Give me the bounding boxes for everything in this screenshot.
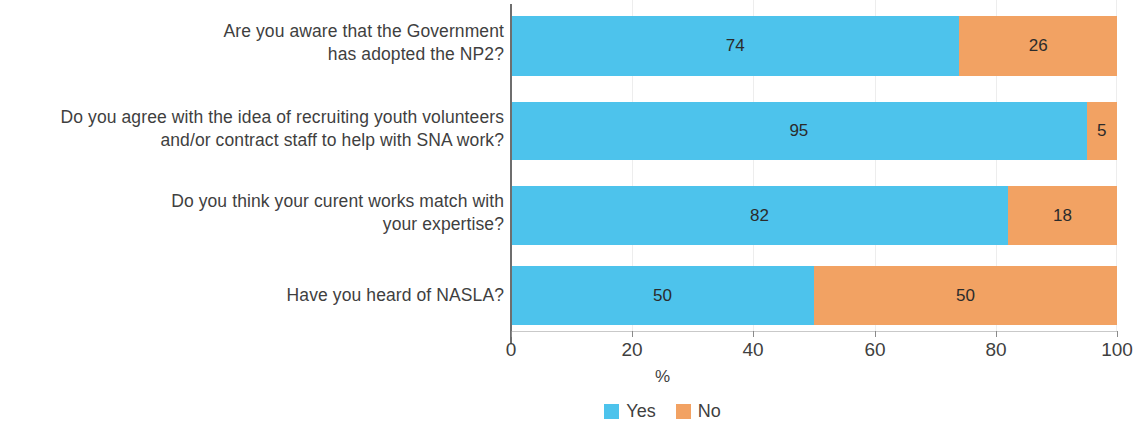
bar-segment-yes[interactable]: 50	[511, 266, 814, 325]
bar-segment-no[interactable]: 5	[1087, 102, 1117, 160]
category-label-line: Have you heard of NASLA?	[4, 284, 504, 307]
category-label-line: Do you agree with the idea of recruiting…	[4, 106, 504, 129]
legend-label-no: No	[698, 401, 721, 422]
x-axis-title-text: %	[655, 367, 670, 386]
x-tick-label-100: 100	[1082, 339, 1133, 361]
bar-value-label: 26	[1029, 36, 1048, 56]
category-label-np2-awareness: Are you aware that the Government has ad…	[4, 20, 504, 66]
category-label-line: and/or contract staff to help with SNA w…	[4, 129, 504, 152]
bar-value-label: 18	[1053, 206, 1072, 226]
bar-row: 95 5	[511, 102, 1117, 160]
bar-segment-yes[interactable]: 95	[511, 102, 1087, 160]
tick-mark-20	[632, 331, 633, 337]
bar-row: 50 50	[511, 266, 1117, 325]
bar-value-label: 82	[750, 206, 769, 226]
bar-segment-yes[interactable]: 74	[511, 16, 959, 76]
legend-swatch-no-icon	[676, 404, 691, 419]
x-tick-label-20: 20	[597, 339, 667, 361]
tick-mark-100	[1117, 331, 1118, 337]
bar-value-label: 5	[1097, 121, 1106, 141]
legend-swatch-yes-icon	[604, 404, 619, 419]
tick-mark-0	[511, 331, 512, 337]
bar-segment-no[interactable]: 18	[1008, 186, 1117, 245]
legend-item-no[interactable]: No	[676, 401, 721, 422]
bar-segment-no[interactable]: 26	[959, 16, 1117, 76]
category-label-work-expertise-match: Do you think your curent works match wit…	[4, 190, 504, 236]
bar-value-label: 50	[956, 286, 975, 306]
category-label-line: Do you think your curent works match wit…	[4, 190, 504, 213]
bar-row: 74 26	[511, 16, 1117, 76]
y-axis-line	[510, 4, 512, 344]
category-label-nasla-awareness: Have you heard of NASLA?	[4, 284, 504, 307]
category-label-youth-volunteers: Do you agree with the idea of recruiting…	[4, 106, 504, 152]
bar-value-label: 74	[726, 36, 745, 56]
bar-value-label: 95	[789, 121, 808, 141]
category-label-line: has adopted the NP2?	[4, 43, 504, 66]
x-tick-label-40: 40	[718, 339, 788, 361]
stacked-bar-chart: Are you aware that the Government has ad…	[0, 0, 1133, 430]
x-tick-label-60: 60	[840, 339, 910, 361]
tick-mark-60	[875, 331, 876, 337]
chart-legend: Yes No	[0, 401, 1133, 422]
x-tick-label-0: 0	[476, 339, 546, 361]
tick-mark-80	[996, 331, 997, 337]
bar-value-label: 50	[653, 286, 672, 306]
bar-segment-yes[interactable]: 82	[511, 186, 1008, 245]
bar-row: 82 18	[511, 186, 1117, 245]
plot-area: 74 26 95 5 82 18 50	[511, 0, 1117, 331]
x-axis-title: %	[0, 367, 1133, 387]
bar-segment-no[interactable]: 50	[814, 266, 1117, 325]
category-label-line: your expertise?	[4, 213, 504, 236]
tick-mark-40	[753, 331, 754, 337]
legend-label-yes: Yes	[626, 401, 655, 422]
x-tick-label-80: 80	[961, 339, 1031, 361]
x-axis-line	[511, 331, 1118, 332]
category-label-line: Are you aware that the Government	[4, 20, 504, 43]
legend-item-yes[interactable]: Yes	[604, 401, 655, 422]
